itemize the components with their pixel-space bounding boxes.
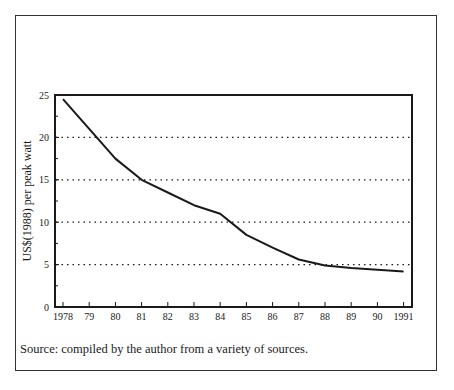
- x-tick-label: 1991: [394, 311, 414, 322]
- y-tick-label: 20: [39, 132, 49, 143]
- x-tick-label: 85: [241, 311, 251, 322]
- x-tick-label: 82: [163, 311, 173, 322]
- x-tick-label: 79: [84, 311, 94, 322]
- x-tick-label: 84: [215, 311, 225, 322]
- gridlines: [56, 137, 411, 264]
- y-tick-label: 25: [39, 90, 49, 101]
- x-tick-label: 87: [294, 311, 304, 322]
- x-tick-label: 90: [372, 311, 382, 322]
- price-line: [63, 99, 404, 271]
- line-chart: 0510152025 19787980818283848586878889901…: [0, 0, 454, 390]
- x-tick-label: 83: [189, 311, 199, 322]
- source-note: Source: compiled by the author from a va…: [20, 342, 308, 357]
- y-axis-label: US$(1988) per peak watt: [20, 140, 34, 262]
- x-tick-label: 88: [320, 311, 330, 322]
- x-tick-label: 81: [137, 311, 147, 322]
- x-axis: 19787980818283848586878889901991: [53, 302, 414, 322]
- x-tick-label: 86: [268, 311, 278, 322]
- x-tick-label: 89: [346, 311, 356, 322]
- y-tick-label: 5: [44, 259, 49, 270]
- y-tick-label: 10: [39, 217, 49, 228]
- x-tick-label: 80: [110, 311, 120, 322]
- x-tick-label: 1978: [53, 311, 73, 322]
- plot-area: [55, 95, 412, 307]
- y-tick-label: 0: [44, 302, 49, 313]
- y-tick-label: 15: [39, 174, 49, 185]
